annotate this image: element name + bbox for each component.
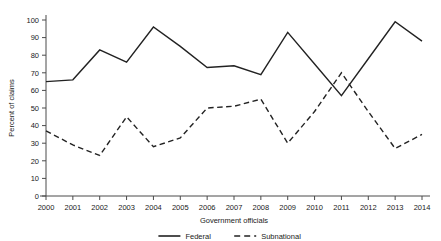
x-tick-label: 2002 xyxy=(91,203,108,212)
x-tick-label: 2008 xyxy=(253,203,270,212)
x-axis-title: Government officials xyxy=(200,216,268,225)
x-tick-label: 2011 xyxy=(333,203,349,212)
series-line-subnational xyxy=(46,73,422,156)
x-tick-label: 2014 xyxy=(414,203,431,212)
x-tick-label: 2006 xyxy=(199,203,216,212)
x-tick-label: 2004 xyxy=(145,203,162,212)
y-tick-label: 20 xyxy=(31,157,39,166)
x-tick-label: 2010 xyxy=(306,203,323,212)
x-tick-label: 2001 xyxy=(65,203,82,212)
x-tick-label: 2012 xyxy=(360,203,377,212)
y-tick-label: 100 xyxy=(26,16,39,25)
x-tick-label: 2009 xyxy=(279,203,296,212)
x-tick-label: 2005 xyxy=(172,203,189,212)
y-tick-label: 90 xyxy=(31,33,39,42)
y-tick-label: 80 xyxy=(31,51,39,60)
x-tick-label: 2007 xyxy=(226,203,243,212)
y-tick-label: 60 xyxy=(31,86,39,95)
series-line-federal xyxy=(46,22,422,96)
legend-label-federal: Federal xyxy=(185,232,211,241)
y-tick-label: 40 xyxy=(31,121,39,130)
y-tick-label: 0 xyxy=(35,192,39,201)
legend-label-subnational: Subnational xyxy=(261,232,301,241)
y-tick-label: 10 xyxy=(31,174,39,183)
x-tick-label: 2013 xyxy=(387,203,404,212)
y-tick-label: 30 xyxy=(31,139,39,148)
chart-canvas: 0102030405060708090100200020012002200320… xyxy=(0,0,441,241)
line-chart: 0102030405060708090100200020012002200320… xyxy=(0,0,441,241)
x-tick-label: 2003 xyxy=(118,203,135,212)
y-tick-label: 70 xyxy=(31,69,39,78)
y-tick-label: 50 xyxy=(31,104,39,113)
x-tick-label: 2000 xyxy=(38,203,55,212)
y-axis-title: Percent of claims xyxy=(7,79,16,137)
